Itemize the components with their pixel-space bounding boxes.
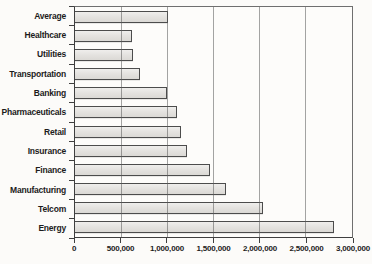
x-tick-label-0: 0 — [72, 244, 76, 253]
plot-area — [74, 6, 353, 238]
bar-row — [75, 26, 352, 45]
bar-row — [75, 65, 352, 84]
category-label-insurance: Insurance — [0, 141, 70, 160]
category-label-energy: Energy — [0, 219, 70, 238]
x-tick-mark — [353, 238, 354, 243]
bar-row — [75, 84, 352, 103]
x-tick-mark — [74, 238, 75, 243]
x-tick-label-3000000: 3,000,000 — [336, 244, 370, 253]
bar-energy — [75, 221, 334, 233]
x-tick-label-1500000: 1,500,000 — [197, 244, 231, 253]
bar-telcom — [75, 202, 263, 214]
bar-pharmaceuticals — [75, 106, 177, 118]
bar-series — [75, 7, 352, 237]
bar-healthcare — [75, 30, 132, 42]
category-label-telcom: Telcom — [0, 199, 70, 218]
category-axis-labels: Average Healthcare Utilities Transportat… — [0, 6, 70, 238]
bar-transportation — [75, 68, 140, 80]
bar-utilities — [75, 49, 133, 61]
x-tick-mark — [120, 238, 121, 243]
x-tick-label-1000000: 1,000,000 — [150, 244, 184, 253]
bar-banking — [75, 87, 167, 99]
bar-row — [75, 218, 352, 237]
bar-retail — [75, 126, 181, 138]
value-axis-ticks — [74, 238, 353, 243]
category-label-average: Average — [0, 6, 70, 25]
bar-row — [75, 103, 352, 122]
category-label-retail: Retail — [0, 122, 70, 141]
industry-bar-chart: Average Healthcare Utilities Transportat… — [0, 0, 372, 264]
bar-row — [75, 141, 352, 160]
x-tick-label-2000000: 2,000,000 — [243, 244, 277, 253]
category-label-transportation: Transportation — [0, 64, 70, 83]
bar-average — [75, 11, 168, 23]
x-tick-label-2500000: 2,500,000 — [290, 244, 324, 253]
x-tick-mark — [213, 238, 214, 243]
category-label-utilities: Utilities — [0, 45, 70, 64]
bar-row — [75, 160, 352, 179]
bar-row — [75, 180, 352, 199]
x-tick-mark — [306, 238, 307, 243]
x-tick-mark — [166, 238, 167, 243]
x-tick-label-500000: 500,000 — [107, 244, 135, 253]
category-label-healthcare: Healthcare — [0, 25, 70, 44]
bar-row — [75, 7, 352, 26]
bar-manufacturing — [75, 183, 226, 195]
value-axis-labels: 0 500,000 1,000,000 1,500,000 2,000,000 … — [74, 244, 353, 256]
category-label-pharmaceuticals: Pharmaceuticals — [0, 103, 70, 122]
bar-insurance — [75, 145, 187, 157]
category-label-banking: Banking — [0, 83, 70, 102]
bar-row — [75, 122, 352, 141]
bar-row — [75, 199, 352, 218]
bar-row — [75, 45, 352, 64]
category-label-finance: Finance — [0, 161, 70, 180]
category-label-manufacturing: Manufacturing — [0, 180, 70, 199]
bar-finance — [75, 164, 210, 176]
x-tick-mark — [259, 238, 260, 243]
